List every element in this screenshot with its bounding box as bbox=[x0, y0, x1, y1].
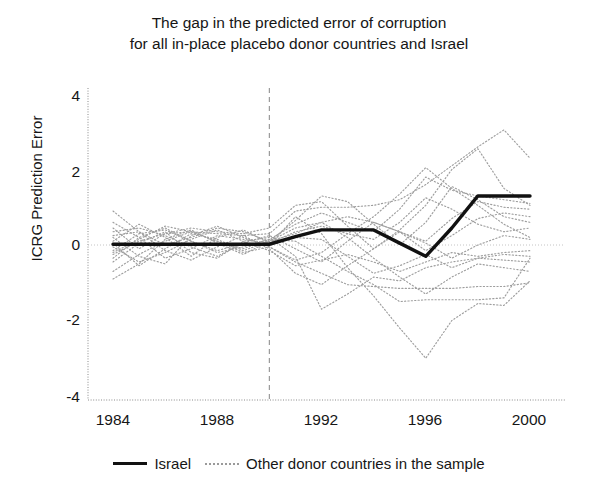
legend-item-other-donors[interactable]: Other donor countries in the sample bbox=[205, 455, 484, 472]
chart-legend: Israel Other donor countries in the samp… bbox=[0, 455, 598, 472]
placebo-line bbox=[113, 177, 530, 253]
figure-container: The gap in the predicted error of corrup… bbox=[0, 0, 598, 497]
legend-label-israel: Israel bbox=[154, 455, 191, 472]
placebo-line bbox=[113, 149, 530, 255]
legend-label-other-donors: Other donor countries in the sample bbox=[246, 455, 484, 472]
legend-item-israel[interactable]: Israel bbox=[113, 455, 191, 472]
plot-area bbox=[0, 0, 598, 497]
legend-swatch-solid-icon bbox=[113, 462, 147, 465]
placebo-line bbox=[113, 226, 530, 288]
legend-swatch-dotted-icon bbox=[205, 463, 239, 465]
